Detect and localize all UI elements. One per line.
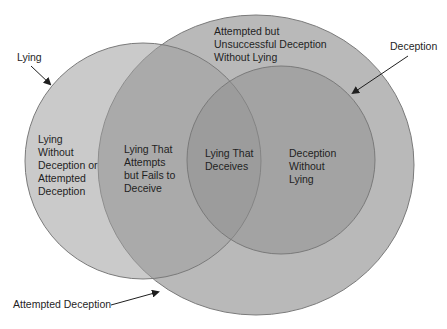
region-lying-attempts-fails: Lying That Attempts but Fails to Deceive [124,143,175,195]
region-lying-deceives: Lying That Deceives [205,147,253,173]
region-attempted-unsuccessful: Attempted but Unsuccessful Deception Wit… [214,25,327,64]
region-lying-only: Lying Without Deception or Attempted Dec… [38,133,98,198]
callout-attempted-deception: Attempted Deception [13,298,111,311]
lying-arrow [31,66,50,84]
region-deception-without-lying: Deception Without Lying [289,147,336,186]
callout-deception: Deception [390,40,437,53]
callout-lying: Lying [17,51,42,64]
attempted-deception-arrow [111,292,158,305]
